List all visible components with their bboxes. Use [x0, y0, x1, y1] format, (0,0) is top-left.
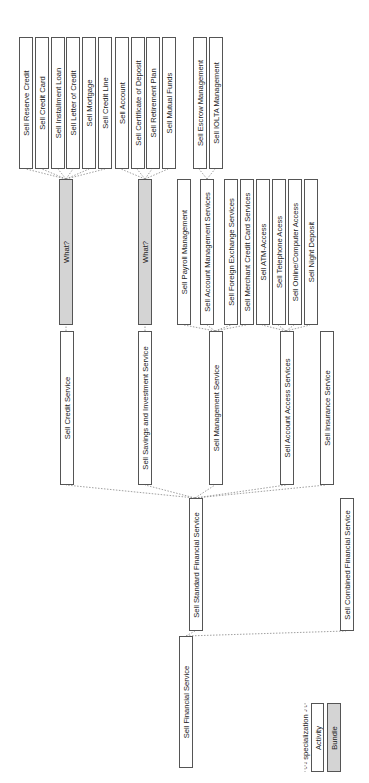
node-label: What?: [141, 241, 150, 263]
node-sell-retirement-plan[interactable]: Sell Retirement Plan: [146, 37, 160, 169]
node-label: Sell Retirement Plan: [149, 68, 158, 137]
node-label: Sell Escrow Management: [196, 60, 205, 146]
node-sell-atm-access[interactable]: Sell ATM-Access: [256, 179, 270, 325]
node-sell-account-management-services[interactable]: Sell Account Management Services: [200, 179, 214, 325]
node-sell-iolta-management[interactable]: Sell IOLTA Management: [209, 37, 223, 169]
node-sell-credit-line[interactable]: Sell Credit Line: [98, 37, 112, 169]
node-sell-certificate-of-deposit[interactable]: Sell Certificate of Deposit: [131, 37, 145, 169]
legend-bundle: Bundle: [327, 703, 341, 772]
node-label: Sell IOLTA Management: [212, 62, 221, 144]
node-label: Sell Payroll Management: [180, 210, 189, 294]
node-sell-online-computer-access[interactable]: Sell Online/Computer Access: [288, 179, 302, 325]
node-sell-savings-investment-service[interactable]: Sell Savings and Investment Service: [138, 331, 152, 485]
node-sell-payroll-management[interactable]: Sell Payroll Management: [177, 179, 191, 325]
node-label: Sell Account: [118, 82, 127, 124]
node-sell-letter-of-credit[interactable]: Sell Letter of Credit: [66, 37, 80, 169]
node-sell-reserve-credit[interactable]: Sell Reserve Credit: [19, 37, 33, 169]
node-label: Sell Savings and Investment Service: [141, 346, 150, 469]
node-sell-telephone-access[interactable]: Sell Telephone Acess: [272, 179, 286, 325]
node-label: Sell Credit Line: [101, 77, 110, 129]
node-label: Sell Combined Financial Service: [343, 510, 352, 619]
node-sell-night-deposit[interactable]: Sell Night Deposit: [304, 179, 318, 325]
node-label: Sell Merchant Credit Card Services: [243, 193, 252, 312]
node-label: Sell Telephone Acess: [275, 216, 284, 288]
node-label: Sell ATM-Access: [259, 224, 268, 281]
node-sell-foreign-exchange-services[interactable]: Sell Foreign Exchange Services: [224, 179, 238, 325]
node-sell-mutual-funds[interactable]: Sell Mutual Funds: [162, 37, 176, 169]
node-label: What?: [62, 241, 71, 263]
node-sell-standard-financial-service[interactable]: Sell Standard Financial Service: [189, 498, 203, 631]
node-label: Sell Account Access Services: [283, 358, 292, 457]
legend-activity: Activity: [311, 703, 324, 772]
legend-activity-label: Activity: [313, 725, 322, 749]
node-sell-account-access-services[interactable]: Sell Account Access Services: [280, 331, 294, 485]
node-sell-merchant-credit-card-services[interactable]: Sell Merchant Credit Card Services: [240, 179, 254, 325]
node-label: Sell Foreign Exchange Services: [227, 198, 236, 306]
node-label: Sell Certificate of Deposit: [134, 60, 143, 145]
node-sell-escrow-management[interactable]: Sell Escrow Management: [193, 37, 207, 169]
node-what-savings-bundle[interactable]: What?: [138, 179, 152, 325]
node-sell-account[interactable]: Sell Account: [115, 37, 129, 169]
node-label: Sell Mutual Funds: [165, 73, 174, 134]
node-sell-combined-financial-service[interactable]: Sell Combined Financial Service: [340, 498, 354, 631]
node-label: Sell Online/Computer Access: [291, 203, 300, 301]
node-sell-management-service[interactable]: Sell Management Service: [209, 331, 223, 485]
node-label: Sell Night Deposit: [307, 222, 316, 282]
node-sell-mortgage[interactable]: Sell Mortgage: [82, 37, 96, 169]
node-sell-financial-service[interactable]: Sell Financial Service: [179, 636, 193, 768]
node-label: Sell Insurance Service: [323, 370, 332, 446]
node-what-credit-bundle[interactable]: What?: [59, 179, 73, 325]
node-label: Sell Credit Card: [38, 76, 47, 130]
legend-specialization-label: - - specialization - -: [301, 705, 310, 769]
node-label: Sell Mortgage: [85, 80, 94, 127]
node-sell-credit-card[interactable]: Sell Credit Card: [35, 37, 49, 169]
node-label: Sell Reserve Credit: [22, 70, 31, 135]
node-label: Sell Financial Service: [182, 666, 191, 739]
node-label: Sell Standard Financial Service: [192, 512, 201, 618]
node-label: Sell Credit Service: [63, 377, 72, 439]
node-label: Sell Letter of Credit: [69, 71, 78, 136]
node-label: Sell Installment Loan: [54, 68, 63, 139]
node-sell-credit-service[interactable]: Sell Credit Service: [60, 331, 74, 485]
node-label: Sell Account Management Services: [203, 192, 212, 311]
node-sell-installment-loan[interactable]: Sell Installment Loan: [51, 37, 65, 169]
legend-bundle-label: Bundle: [330, 726, 339, 750]
node-sell-insurance-service[interactable]: Sell Insurance Service: [320, 331, 334, 485]
node-label: Sell Management Service: [212, 365, 221, 452]
